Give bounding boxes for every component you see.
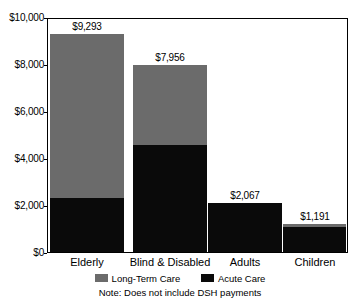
x-axis-label-elderly: Elderly [49,256,125,268]
chart-note: Note: Does not include DSH payments [0,287,360,298]
x-axis-label-adults: Adults [207,256,283,268]
x-axis-label-children: Children [283,256,347,268]
bar-segment-acute-care [133,145,207,252]
y-axis-tick-mark [44,253,47,254]
y-axis-tick-label: $8,000 [0,60,44,70]
legend-label-long-term-care: Long-Term Care [112,273,181,284]
y-axis-tick-label: $6,000 [0,107,44,117]
legend-swatch-black-icon [201,274,214,282]
bar-segment-long-term-care [133,65,207,145]
chart-container: $10,000 $8,000 $6,000 $4,000 $2,000 $0 [0,0,360,304]
bar-segment-long-term-care [50,34,124,198]
y-axis-tick-label: $0 [0,248,44,258]
bar-value-label-blind-and-disabled: $7,956 [132,52,208,63]
y-axis-tick-label: $10,000 [0,13,44,23]
chart-legend: Long-Term Care Acute Care [0,272,360,284]
legend-item-acute-care: Acute Care [201,272,266,284]
bar-blind-and-disabled [133,65,207,252]
bar-value-label-elderly: $9,293 [49,21,125,32]
legend-label-acute-care: Acute Care [218,273,266,284]
bar-elderly [50,34,124,252]
x-axis-label-blind-and-disabled: Blind & Disabled [120,256,220,268]
bar-children [283,224,346,252]
y-axis-tick-label: $4,000 [0,154,44,164]
bar-adults [208,203,282,252]
legend-item-long-term-care: Long-Term Care [95,272,181,284]
bar-value-label-children: $1,191 [283,211,347,222]
bar-segment-acute-care [50,198,124,252]
bar-segment-acute-care [208,203,282,252]
bar-segment-acute-care [283,227,346,252]
legend-swatch-gray-icon [95,274,108,282]
bar-value-label-adults: $2,067 [207,190,283,201]
y-axis-tick-label: $2,000 [0,201,44,211]
